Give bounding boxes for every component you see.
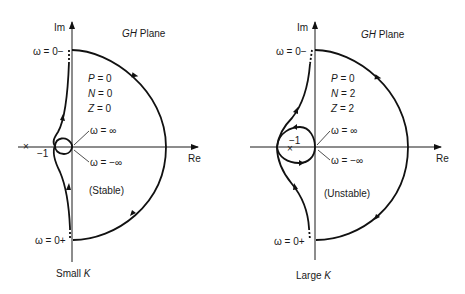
nyquist-branch-lower — [277, 147, 309, 228]
im-axis-label: Im — [54, 22, 65, 33]
critical-point-label: −1 — [37, 148, 49, 159]
omega-zero-plus-dash — [309, 228, 310, 240]
panel-small-k: Im Re GH Plane × −1 ω = 0− ω = 0+ ω = ∞ … — [18, 22, 201, 279]
branch-lower-arrow — [66, 183, 71, 190]
omega-infinity-leader — [74, 131, 89, 145]
stat-n: N = 2 — [331, 88, 356, 99]
omega-zero-plus-label: ω = 0+ — [274, 236, 305, 247]
omega-neg-infinity-label: ω = −∞ — [331, 155, 363, 166]
panel-large-k: Im Re GH Plane × −1 ω = 0− ω = 0+ ω = ∞ … — [250, 22, 449, 281]
panel-caption: Large K — [296, 270, 332, 281]
omega-zero-plus-label: ω = 0+ — [35, 235, 66, 246]
omega-zero-minus-label: ω = 0− — [276, 46, 307, 57]
branch-lower-arrow — [293, 183, 298, 190]
stability-label: (Stable) — [89, 185, 124, 196]
omega-infinity-leader — [317, 131, 330, 145]
plane-label: GH Plane — [122, 28, 166, 39]
nyquist-large-arc — [72, 50, 166, 240]
stat-n: N = 0 — [88, 88, 113, 99]
omega-zero-minus-dash — [310, 50, 312, 64]
critical-point-marker: × — [23, 141, 29, 152]
stat-z: Z = 2 — [330, 103, 355, 114]
stat-p: P = 0 — [88, 73, 112, 84]
arc-arrow-upper — [131, 71, 139, 77]
stability-label: (Unstable) — [324, 188, 370, 199]
critical-point-label: −1 — [289, 135, 301, 146]
omega-neg-infinity-leader — [74, 150, 89, 162]
stat-p: P = 0 — [331, 73, 355, 84]
re-axis-label: Re — [436, 153, 449, 164]
loop-arrow-lower — [299, 160, 304, 166]
re-axis-label: Re — [188, 153, 201, 164]
branch-upper-arrow — [293, 107, 298, 114]
omega-neg-infinity-leader — [318, 150, 330, 160]
nyquist-small-loop — [55, 138, 72, 154]
omega-zero-minus-label: ω = 0− — [33, 46, 64, 57]
omega-neg-infinity-label: ω = −∞ — [90, 157, 122, 168]
im-axis-label: Im — [297, 22, 308, 33]
loop-arrow-upper — [293, 124, 297, 130]
panel-caption: Small K — [56, 268, 92, 279]
plane-label: GH Plane — [361, 29, 405, 40]
nyquist-large-arc — [315, 50, 408, 240]
stat-z: Z = 0 — [87, 103, 112, 114]
nyquist-figure: Im Re GH Plane × −1 ω = 0− ω = 0+ ω = ∞ … — [0, 0, 465, 294]
nyquist-branch-upper — [54, 62, 69, 146]
omega-infinity-label: ω = ∞ — [90, 125, 116, 136]
omega-infinity-label: ω = ∞ — [331, 125, 357, 136]
